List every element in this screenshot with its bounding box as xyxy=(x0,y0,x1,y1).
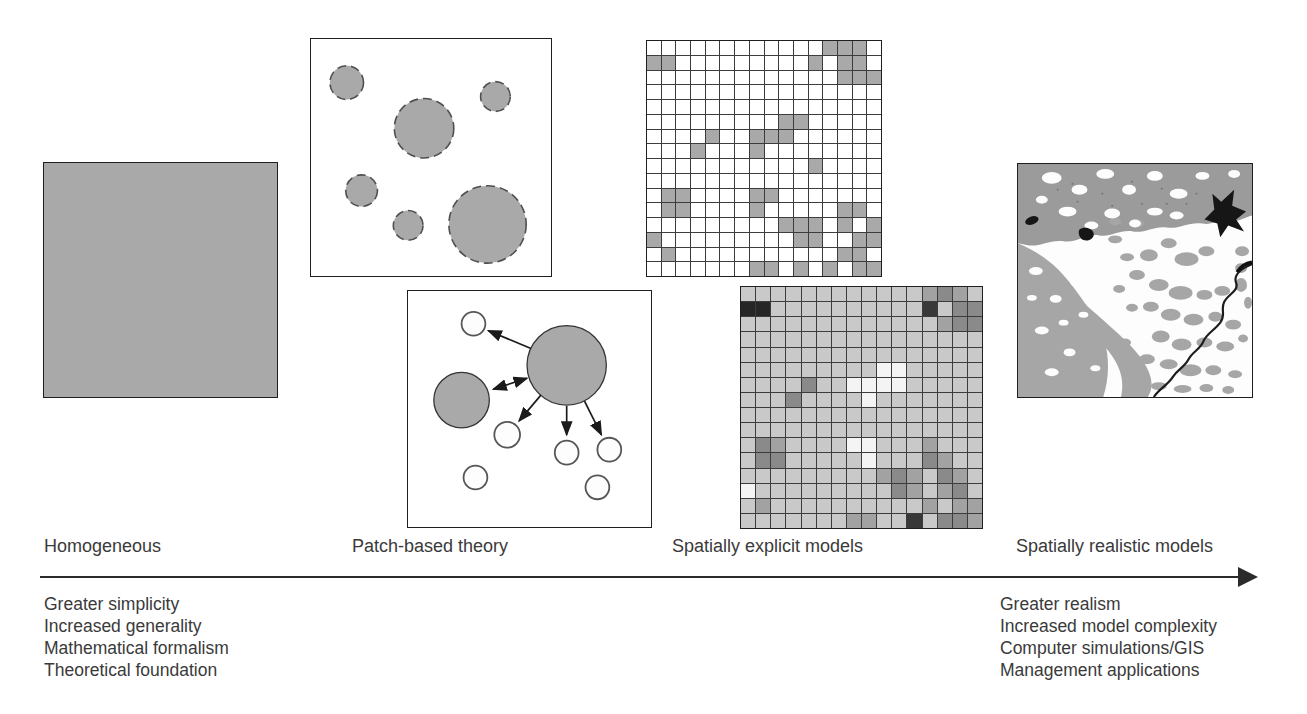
grid-cell xyxy=(853,115,867,129)
grid-cell xyxy=(892,469,906,483)
grid-cell xyxy=(706,144,720,158)
grid-cell xyxy=(867,174,881,188)
grid-cell xyxy=(809,174,823,188)
grid-cell xyxy=(771,484,785,498)
grid-cell xyxy=(786,408,800,422)
grid-cell xyxy=(853,144,867,158)
grid-cell xyxy=(756,423,770,437)
grid-cell xyxy=(756,393,770,407)
grid-cell xyxy=(786,514,800,528)
grid-cell xyxy=(647,233,661,247)
grid-cell xyxy=(802,484,816,498)
grid-cell xyxy=(756,302,770,316)
grid-cell xyxy=(862,287,876,301)
grid-cell xyxy=(907,423,921,437)
grid-cell xyxy=(786,393,800,407)
grid-cell xyxy=(817,363,831,377)
grid-cell xyxy=(823,174,837,188)
grid-cell xyxy=(838,41,852,55)
grid-cell xyxy=(847,408,861,422)
grid-cell xyxy=(779,100,793,114)
grid-cell xyxy=(802,378,816,392)
grid-cell xyxy=(832,363,846,377)
grid-cell xyxy=(794,218,808,232)
dispersal-arrow xyxy=(585,401,602,435)
grid-cell xyxy=(907,302,921,316)
grid-cell xyxy=(706,56,720,70)
grid-cell xyxy=(838,233,852,247)
grid-cell xyxy=(862,363,876,377)
grid-cell xyxy=(953,302,967,316)
grid-cell xyxy=(720,144,734,158)
grid-cell xyxy=(676,189,690,203)
grid-cell xyxy=(953,287,967,301)
occupancy-grid xyxy=(647,41,881,276)
grid-cell xyxy=(892,484,906,498)
grid-cell xyxy=(662,189,676,203)
grid-cell xyxy=(756,332,770,346)
grid-cell xyxy=(832,484,846,498)
grid-cell xyxy=(756,453,770,467)
grid-cell xyxy=(817,378,831,392)
grid-cell xyxy=(691,218,705,232)
grid-cell xyxy=(817,302,831,316)
grid-cell xyxy=(786,287,800,301)
grid-cell xyxy=(794,71,808,85)
figure-canvas: Homogeneous Patch-based theory Spatially… xyxy=(0,0,1307,714)
grid-cell xyxy=(662,41,676,55)
grid-cell xyxy=(771,499,785,513)
grid-cell xyxy=(862,469,876,483)
grid-cell xyxy=(968,499,982,513)
grid-cell xyxy=(832,393,846,407)
grid-cell xyxy=(968,514,982,528)
grid-cell xyxy=(838,56,852,70)
grid-cell xyxy=(750,203,764,217)
empty-patch-circle xyxy=(586,475,610,499)
habitat-patch-circle xyxy=(394,98,453,157)
empty-patch-circle xyxy=(464,466,488,490)
grid-cell xyxy=(838,85,852,99)
grid-cell xyxy=(817,469,831,483)
grid-cell xyxy=(735,174,749,188)
grid-cell xyxy=(953,423,967,437)
axis-right-item: Management applications xyxy=(1000,659,1217,681)
grid-cell xyxy=(907,438,921,452)
grid-cell xyxy=(647,115,661,129)
grid-cell xyxy=(809,203,823,217)
grid-cell xyxy=(853,262,867,276)
grid-cell xyxy=(765,71,779,85)
grid-cell xyxy=(802,287,816,301)
grid-cell xyxy=(809,71,823,85)
grid-cell xyxy=(953,317,967,331)
grid-cell xyxy=(662,144,676,158)
grid-cell xyxy=(691,174,705,188)
grid-cell xyxy=(662,159,676,173)
grid-cell xyxy=(953,378,967,392)
grid-cell xyxy=(779,174,793,188)
grid-cell xyxy=(832,438,846,452)
grid-cell xyxy=(968,484,982,498)
grid-cell xyxy=(953,514,967,528)
grid-cell xyxy=(706,203,720,217)
grid-cell xyxy=(953,453,967,467)
grid-cell xyxy=(953,499,967,513)
shaded-grid xyxy=(741,287,982,528)
grid-cell xyxy=(832,453,846,467)
grid-cell xyxy=(720,130,734,144)
grid-cell xyxy=(750,144,764,158)
grid-cell xyxy=(802,408,816,422)
grid-cell xyxy=(756,348,770,362)
grid-cell xyxy=(862,332,876,346)
grid-cell xyxy=(832,317,846,331)
grid-cell xyxy=(706,248,720,262)
grid-cell xyxy=(938,514,952,528)
grid-cell xyxy=(877,499,891,513)
grid-cell xyxy=(853,100,867,114)
grid-cell xyxy=(765,233,779,247)
grid-cell xyxy=(953,469,967,483)
grid-cell xyxy=(765,115,779,129)
grid-cell xyxy=(823,262,837,276)
grid-cell xyxy=(802,348,816,362)
empty-patch-circle xyxy=(494,422,520,448)
label-homogeneous: Homogeneous xyxy=(44,536,161,557)
